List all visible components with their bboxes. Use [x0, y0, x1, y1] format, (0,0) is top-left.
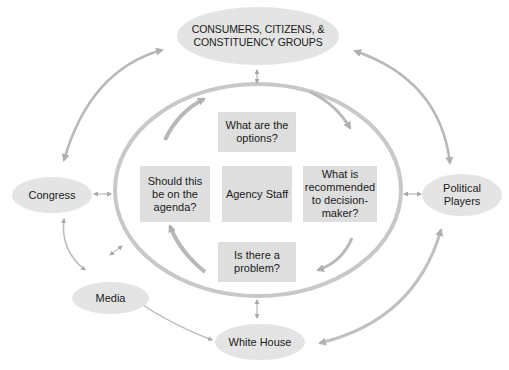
node-consumers: CONSUMERS, CITIZENS, & CONSTITUENCY GROU… — [177, 7, 339, 65]
step-recommend: What is recommended to decision-maker? — [303, 166, 377, 222]
node-congress-label: Congress — [28, 189, 75, 202]
step-agenda-label: Should this be on the agenda? — [141, 175, 209, 214]
node-political-players: Political Players — [422, 174, 502, 216]
node-political-players-label: Political Players — [437, 182, 487, 208]
cycle-arrow-recommend-to-problem — [318, 238, 352, 270]
center-agency-staff-label: Agency Staff — [226, 188, 288, 201]
node-white-house-label: White House — [229, 336, 292, 349]
center-agency-staff: Agency Staff — [222, 166, 292, 222]
link-consumers-congress — [64, 50, 162, 160]
step-agenda: Should this be on the agenda? — [140, 166, 210, 222]
link-media-ring — [110, 246, 122, 255]
step-options: What are the options? — [218, 112, 296, 152]
link-consumers-political — [355, 51, 450, 163]
step-recommend-label: What is recommended to decision-maker? — [304, 168, 376, 220]
node-consumers-label: CONSUMERS, CITIZENS, & CONSTITUENCY GROU… — [188, 23, 328, 49]
node-media: Media — [72, 282, 149, 314]
step-options-label: What are the options? — [222, 119, 292, 145]
node-white-house: White House — [215, 324, 305, 360]
link-congress-media — [63, 219, 85, 270]
node-congress: Congress — [12, 177, 92, 213]
node-media-label: Media — [96, 292, 126, 305]
step-problem: Is there a problem? — [218, 242, 296, 282]
step-problem-label: Is there a problem? — [227, 249, 287, 275]
cycle-arrow-problem-to-agenda — [170, 226, 205, 272]
